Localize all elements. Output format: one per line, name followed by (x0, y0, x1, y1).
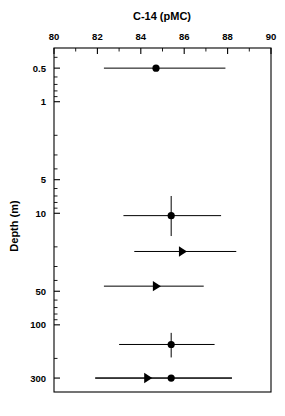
x-axis-title: C-14 (pMC) (133, 10, 191, 22)
y-tick-label: 1 (41, 96, 47, 107)
y-tick-label: 100 (30, 319, 46, 330)
x-tick-label: 84 (136, 31, 147, 42)
y-tick-label: 50 (35, 286, 46, 297)
x-tick-label: 86 (179, 31, 190, 42)
circle-marker (168, 374, 175, 381)
circle-marker (168, 212, 175, 219)
y-axis-title: Depth (m) (8, 200, 20, 252)
x-tick-label: 90 (266, 31, 277, 42)
y-tick-label: 5 (41, 174, 47, 185)
y-tick-label: 300 (30, 373, 46, 384)
c14-depth-profile-chart: C-14 (pMC) Depth (m) 808284868890 0.5151… (0, 0, 285, 416)
y-tick-label: 0.5 (33, 63, 47, 74)
circle-marker (168, 341, 175, 348)
y-tick-label: 10 (35, 208, 46, 219)
x-tick-label: 80 (49, 31, 60, 42)
x-tick-label: 82 (92, 31, 103, 42)
x-tick-label: 88 (222, 31, 233, 42)
circle-marker (152, 65, 159, 72)
